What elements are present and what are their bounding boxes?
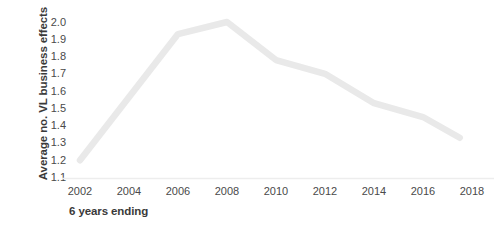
chart-container: Average no. VL business effects 2.01.91.…: [0, 0, 503, 231]
x-axis-tick-label: 2016: [401, 186, 445, 197]
x-axis-tick-label: 2002: [58, 186, 102, 197]
x-axis-tick-label: 2008: [205, 186, 249, 197]
x-axis-title: 6 years ending: [69, 205, 148, 217]
x-axis-tick-label: 2018: [450, 186, 494, 197]
x-axis-tick-label: 2010: [254, 186, 298, 197]
x-axis-tick-label: 2006: [156, 186, 200, 197]
x-axis-tick-label: 2012: [303, 186, 347, 197]
x-axis-tick-label: 2014: [352, 186, 396, 197]
x-axis-tick-label: 2004: [107, 186, 151, 197]
data-series-line: [80, 22, 460, 160]
